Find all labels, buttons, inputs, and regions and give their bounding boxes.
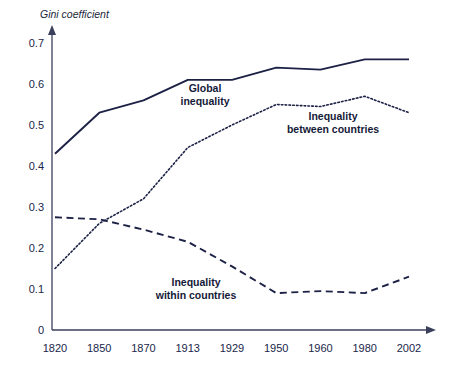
x-tick-1850: 1850: [87, 342, 111, 354]
y-tick-0.7: 0.7: [29, 37, 44, 49]
series-label-global: Globalinequality: [180, 82, 229, 107]
y-tick-0.1: 0.1: [29, 283, 44, 295]
y-tick-0.4: 0.4: [29, 160, 44, 172]
y-axis-title: Gini coefficient: [40, 8, 110, 20]
x-tick-1960: 1960: [308, 342, 332, 354]
y-tick-labels: 0.7 0.6 0.5 0.4 0.3 0.2 0.1 0: [29, 37, 44, 336]
series-group: [55, 59, 409, 293]
x-axis-arrow: [426, 326, 436, 334]
x-tick-labels: 182018501870191319291950196019802002: [43, 342, 421, 354]
y-axis-arrow: [48, 25, 56, 35]
y-tick-0.5: 0.5: [29, 119, 44, 131]
axes-group: [48, 25, 436, 334]
series-line-global-inequality: [55, 59, 409, 153]
x-tick-1929: 1929: [220, 342, 244, 354]
y-tick-0.3: 0.3: [29, 201, 44, 213]
x-tick-1950: 1950: [264, 342, 288, 354]
series-annotations: GlobalinequalityInequalitybetween countr…: [155, 82, 380, 301]
x-tick-1820: 1820: [43, 342, 67, 354]
series-label-within: Inequalitywithin countries: [155, 276, 237, 301]
x-tick-1913: 1913: [176, 342, 200, 354]
x-tick-1870: 1870: [131, 342, 155, 354]
y-tick-0: 0: [38, 324, 44, 336]
gini-coefficient-line-chart: Gini coefficient 0.7 0.6 0.5 0.4 0.3 0.2…: [0, 0, 449, 369]
series-line-inequality-within-countries: [55, 217, 409, 293]
series-label-between: Inequalitybetween countries: [287, 110, 379, 135]
x-tick-2002: 2002: [397, 342, 421, 354]
x-tick-1980: 1980: [353, 342, 377, 354]
y-tick-0.2: 0.2: [29, 242, 44, 254]
chart-container: Gini coefficient 0.7 0.6 0.5 0.4 0.3 0.2…: [0, 0, 449, 369]
y-tick-0.6: 0.6: [29, 78, 44, 90]
